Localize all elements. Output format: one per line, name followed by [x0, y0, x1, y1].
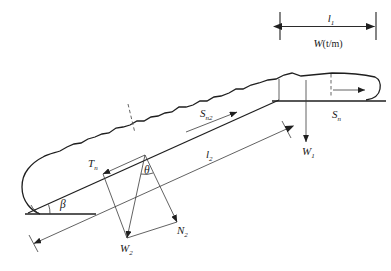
polygon-side-tn-w2: [103, 174, 127, 238]
sn-vector-group: Sn: [332, 90, 365, 123]
beta-label: β: [59, 198, 66, 211]
n2-label: N2: [176, 224, 188, 239]
n2-arrow: [145, 155, 177, 222]
w1-label: W1: [302, 145, 315, 160]
soil-mass-outline: [22, 73, 380, 214]
theta-label: θ: [144, 164, 150, 176]
section-dashed-line: [128, 104, 135, 133]
tn-label: Tn: [88, 157, 98, 172]
diagram-canvas: l1 W(t/m) β Sn2: [0, 0, 391, 271]
sn-label: Sn: [332, 108, 342, 123]
force-polygon-group: Tn W2 N2 θ: [88, 155, 188, 257]
l2-label: l2: [206, 148, 213, 163]
beta-angle-arc: [49, 205, 51, 215]
w2-label: W2: [120, 242, 133, 257]
l2-upper-tick: [282, 121, 291, 138]
l1-dimension-group: l1 W(t/m): [280, 12, 376, 50]
polygon-side-w2-n2: [127, 222, 177, 238]
tn-arrow: [103, 155, 145, 174]
soil-mass-upper-boundary: [22, 73, 380, 214]
slope-force-diagram: l1 W(t/m) β Sn2: [0, 0, 391, 271]
l1-label: l1: [328, 12, 335, 27]
crest-block-group: [279, 74, 331, 100]
w-unit-label: W(t/m): [313, 37, 342, 50]
l2-lower-tick: [29, 235, 38, 252]
sn2-vector-group: Sn2: [186, 107, 237, 132]
sn2-label: Sn2: [200, 107, 213, 122]
w1-vector-group: W1: [302, 80, 315, 160]
section-marker-group: [128, 104, 135, 133]
